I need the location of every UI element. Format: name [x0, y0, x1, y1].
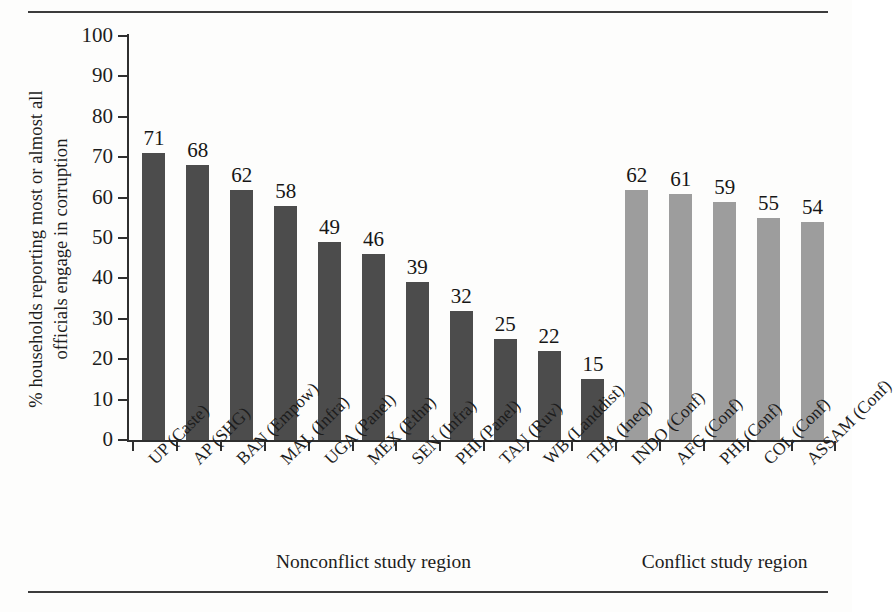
y-axis-tick-label: 20 [67, 348, 113, 369]
y-axis-tick-label: 100 [67, 25, 113, 46]
y-axis-tick-label: 80 [67, 106, 113, 127]
top-divider-rule [28, 11, 828, 13]
bar-value-label: 54 [789, 197, 835, 218]
y-axis-tick [118, 318, 129, 320]
x-axis-tick [132, 441, 134, 451]
y-axis-tick [118, 237, 129, 239]
bar-value-label: 71 [131, 128, 177, 149]
bar-value-label: 22 [526, 326, 572, 347]
y-axis-tick [118, 156, 129, 158]
y-axis-tick-label: 30 [67, 308, 113, 329]
bar-value-label: 58 [263, 181, 309, 202]
bar-nonconflict[interactable] [230, 190, 253, 440]
y-axis-tick [118, 35, 129, 37]
bar-value-label: 55 [746, 193, 792, 214]
y-axis-tick-label: 90 [67, 65, 113, 86]
bar-value-label: 32 [438, 286, 484, 307]
y-axis-tick-label: 40 [67, 267, 113, 288]
bar-value-label: 46 [350, 229, 396, 250]
bar-value-label: 59 [702, 177, 748, 198]
group-label-conflict: Conflict study region [615, 551, 835, 573]
bar-value-label: 25 [482, 314, 528, 335]
y-axis-tick [118, 116, 129, 118]
y-axis-tick-label: 60 [67, 187, 113, 208]
bar-value-label: 62 [614, 165, 660, 186]
y-axis-tick [118, 399, 129, 401]
bar-nonconflict[interactable] [142, 153, 165, 440]
bar-value-label: 15 [570, 354, 616, 375]
y-axis-tick-label: 70 [67, 146, 113, 167]
y-axis-tick-label: 50 [67, 227, 113, 248]
bar-value-label: 68 [175, 140, 221, 161]
bar-value-label: 49 [307, 217, 353, 238]
group-label-nonconflict: Nonconflict study region [132, 551, 615, 573]
y-axis-tick [118, 197, 129, 199]
y-axis-title-line1: % households reporting most or almost al… [26, 90, 46, 408]
bar-value-label: 62 [219, 165, 265, 186]
y-axis-tick [118, 439, 129, 441]
y-axis-tick [118, 277, 129, 279]
y-axis-tick [118, 75, 129, 77]
y-axis-tick-label: 0 [67, 429, 113, 450]
y-axis-tick [118, 358, 129, 360]
bottom-divider-rule [28, 591, 828, 593]
y-axis-tick-label: 10 [67, 389, 113, 410]
bar-value-label: 39 [394, 257, 440, 278]
bar-value-label: 61 [658, 169, 704, 190]
